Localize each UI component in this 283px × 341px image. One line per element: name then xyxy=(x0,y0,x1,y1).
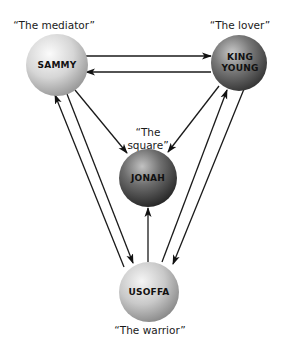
node-label-usoffa: USOFFA xyxy=(129,287,170,297)
node-jonah: JONAH xyxy=(119,149,177,207)
role-label-sammy: “The mediator” xyxy=(13,19,95,31)
role-label-usoffa: “The warrior” xyxy=(114,324,185,336)
node-label-sammy: SAMMY xyxy=(38,60,77,70)
relationship-diagram: “The mediator” “The lover” “The square” … xyxy=(0,0,283,341)
node-sammy: SAMMY xyxy=(26,34,88,96)
node-usoffa: USOFFA xyxy=(119,262,179,322)
node-label-king-young-line2: YOUNG xyxy=(220,63,258,73)
node-king-young: KING YOUNG xyxy=(211,35,267,91)
edge-usoffa-to-sammy xyxy=(55,95,124,267)
role-label-king-young: “The lover” xyxy=(210,19,271,31)
node-label-king-young-line1: KING xyxy=(227,52,253,62)
edge-king-young-to-usoffa xyxy=(173,89,244,264)
edge-king-young-to-jonah xyxy=(168,86,219,152)
edge-sammy-to-jonah xyxy=(75,90,127,153)
node-label-jonah: JONAH xyxy=(130,173,165,183)
role-label-jonah-line1: “The xyxy=(136,126,161,138)
